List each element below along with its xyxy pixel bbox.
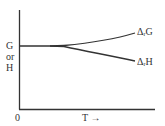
x-axis-label: T → [82, 113, 100, 123]
y-label-h: H [6, 63, 13, 73]
delta-h-label: ΔrH [137, 57, 153, 69]
delta-h-curve [50, 46, 135, 61]
y-label-or: or [6, 52, 14, 62]
y-label-g: G [6, 41, 13, 51]
letter-h: H [145, 56, 152, 67]
letter-g: G [145, 26, 152, 37]
delta-g-label: ΔrG [137, 27, 153, 39]
delta-g-curve [20, 33, 136, 46]
origin-label: 0 [15, 113, 20, 123]
